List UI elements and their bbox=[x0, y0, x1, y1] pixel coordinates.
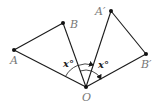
point-b-prime bbox=[144, 52, 148, 56]
angle-label-left: x° bbox=[62, 58, 74, 69]
label-b-prime: B′ bbox=[140, 58, 152, 71]
rotation-diagram: x° x° A B A′ B′ O bbox=[0, 0, 158, 105]
point-a bbox=[12, 48, 16, 52]
segment-a-prime-b-prime bbox=[111, 11, 146, 54]
point-o bbox=[84, 85, 88, 89]
label-o: O bbox=[82, 91, 91, 104]
point-a-prime bbox=[109, 9, 113, 13]
segment-ab bbox=[14, 23, 63, 50]
angle-label-right: x° bbox=[97, 59, 109, 70]
label-a: A bbox=[9, 54, 18, 67]
label-a-prime: A′ bbox=[94, 5, 106, 18]
point-b bbox=[61, 21, 65, 25]
triangle-oab bbox=[14, 23, 86, 87]
label-b: B bbox=[69, 18, 78, 31]
triangle-oa-prime-b-prime bbox=[86, 11, 146, 87]
